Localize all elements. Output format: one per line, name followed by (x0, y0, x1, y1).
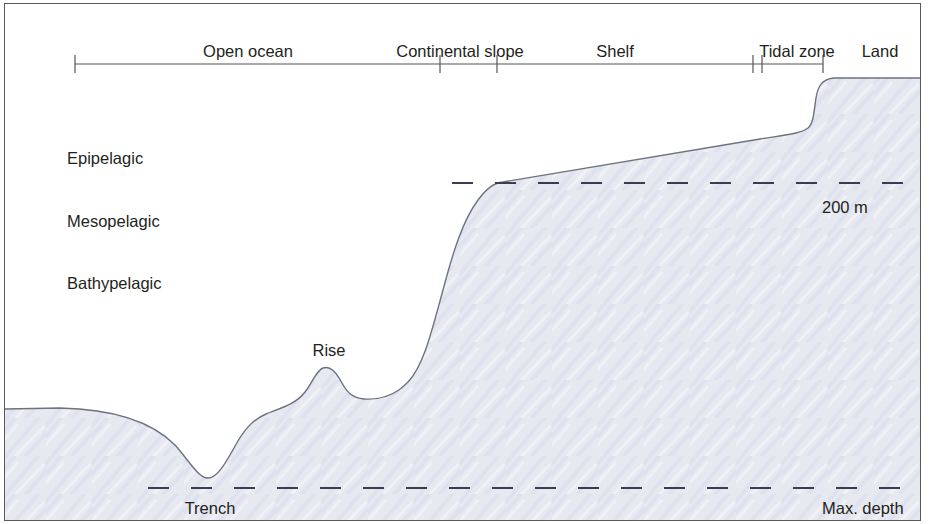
pelagic-label-mesopelagic: Mesopelagic (67, 213, 160, 230)
diagram-canvas (0, 0, 935, 524)
zone-label-open-ocean: Open ocean (203, 43, 293, 60)
pelagic-label-bathypelagic: Bathypelagic (67, 275, 161, 292)
feature-label-trench: Trench (185, 500, 236, 517)
ocean-cross-section-figure: Open oceanContinental slopeShelfTidal zo… (0, 0, 935, 524)
zone-label-continental-slope: Continental slope (396, 43, 524, 60)
depth-label-max-depth: Max. depth (822, 500, 904, 517)
pelagic-label-epipelagic: Epipelagic (67, 150, 143, 167)
depth-label-200-m: 200 m (822, 199, 868, 216)
zone-label-tidal-zone: Tidal zone (759, 43, 835, 60)
zone-label-land: Land (862, 43, 899, 60)
feature-label-rise: Rise (312, 342, 345, 359)
seafloor-land-fill (5, 78, 921, 521)
zone-label-shelf: Shelf (596, 43, 634, 60)
